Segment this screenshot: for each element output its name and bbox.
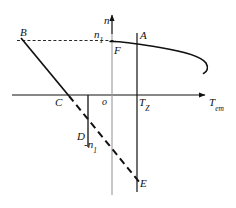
origin-label: o [102, 97, 107, 107]
diagram-svg [0, 0, 236, 208]
tick-label-neg-n1: -n1 [84, 139, 97, 153]
tick-label-n1-sub: 1 [100, 36, 104, 45]
axis-label-t-em-sub: em [215, 104, 224, 113]
point-label-f: F [114, 45, 121, 56]
tick-label-tz: TZ [139, 97, 149, 111]
tick-label-tz-sub: Z [145, 104, 149, 113]
tick-label-neg-n1-sub: 1 [93, 146, 97, 155]
point-label-a: A [140, 30, 147, 41]
axis-label-t-em: Tem [209, 97, 224, 111]
point-label-c: C [55, 97, 62, 108]
axis-label-n: n [104, 15, 110, 26]
segment-b-to-c [21, 38, 69, 96]
point-label-e: E [140, 178, 147, 189]
point-label-b: B [20, 27, 27, 38]
motor-characteristic-curve [110, 41, 207, 73]
tick-label-n1-main: n [94, 28, 100, 40]
figure-canvas: n n1 -n1 TZ Tem o A B C D E F [0, 0, 236, 208]
tick-label-n1: n1 [94, 29, 103, 43]
point-label-d: D [77, 131, 85, 142]
